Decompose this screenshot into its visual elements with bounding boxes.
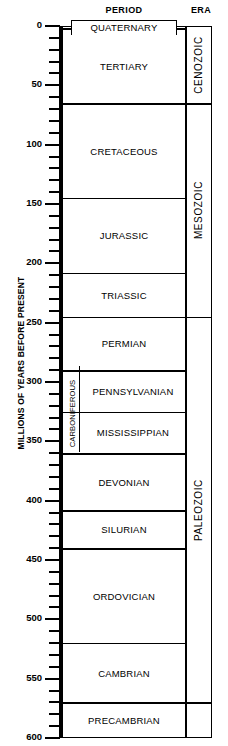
- period-label-jurassic: JURASSIC: [62, 230, 186, 241]
- period-divider: [62, 103, 186, 104]
- axis-tick-minor: [49, 666, 60, 668]
- axis-tick-minor: [49, 488, 60, 490]
- axis-tick-minor: [49, 239, 60, 241]
- axis-tick-major: [45, 322, 60, 324]
- period-label-permian: PERMIAN: [62, 338, 186, 349]
- carboniferous-bracket: CARBONIFEROUS: [62, 366, 80, 452]
- axis-tick-minor: [49, 108, 60, 110]
- axis-tick-minor: [49, 167, 60, 169]
- axis-tick-minor: [49, 227, 60, 229]
- era-label-mesozoic: MESOZOIC: [186, 103, 212, 317]
- period-divider: [62, 702, 186, 703]
- axis-tick-minor: [49, 417, 60, 419]
- axis-tick-label: 200: [2, 256, 42, 267]
- axis-tick-major: [45, 678, 60, 680]
- axis-tick-minor: [49, 393, 60, 395]
- axis-tick-minor: [49, 571, 60, 573]
- axis-tick-major: [45, 618, 60, 620]
- axis-tick-minor: [49, 179, 60, 181]
- axis-tick-label: 350: [2, 434, 42, 445]
- period-divider: [62, 510, 186, 511]
- super-period-label-carboniferous: CARBONIFEROUS: [68, 371, 77, 457]
- period-divider: [62, 198, 186, 199]
- axis-tick-major: [45, 440, 60, 442]
- axis-tick-label: 0: [2, 19, 42, 30]
- axis-tick-major: [45, 500, 60, 502]
- geologic-time-scale-chart: PERIOD ERA MILLIONS OF YEARS BEFORE PRES…: [0, 0, 228, 746]
- axis-tick-minor: [49, 476, 60, 478]
- axis-tick-minor: [49, 654, 60, 656]
- period-label-silurian: SILURIAN: [62, 524, 186, 535]
- era-label-text: MESOZOIC: [186, 103, 212, 317]
- period-label-ordovician: ORDOVICIAN: [62, 590, 186, 601]
- axis-tick-minor: [49, 72, 60, 74]
- axis-tick-minor: [49, 630, 60, 632]
- axis-tick-label: 300: [2, 375, 42, 386]
- period-label-pennsylvanian: PENNSYLVANIAN: [80, 385, 186, 396]
- axis-tick-minor: [49, 642, 60, 644]
- axis-tick-label: 600: [2, 731, 42, 742]
- axis-tick-minor: [49, 713, 60, 715]
- era-label-text: CENOZOIC: [186, 26, 212, 103]
- axis-tick-minor: [49, 595, 60, 597]
- axis-tick-minor: [49, 464, 60, 466]
- axis-tick-major: [45, 203, 60, 205]
- axis-tick-minor: [49, 535, 60, 537]
- axis-tick-label: 100: [2, 138, 42, 149]
- column-header-era: ERA: [186, 5, 216, 15]
- axis-tick-minor: [49, 547, 60, 549]
- period-divider: [62, 273, 186, 274]
- axis-tick-minor: [49, 369, 60, 371]
- axis-tick-minor: [49, 49, 60, 51]
- axis-tick-minor: [49, 274, 60, 276]
- axis-tick-major: [45, 381, 60, 383]
- period-divider: [62, 370, 186, 371]
- axis-tick-minor: [49, 345, 60, 347]
- axis-tick-minor: [49, 215, 60, 217]
- axis-tick-minor: [49, 725, 60, 727]
- axis-tick-label: 450: [2, 553, 42, 564]
- axis-tick-minor: [49, 61, 60, 63]
- axis-tick-label: 250: [2, 316, 42, 327]
- era-label-text: PALEOZOIC: [186, 317, 212, 703]
- axis-tick-label: 550: [2, 672, 42, 683]
- axis-tick-minor: [49, 512, 60, 514]
- period-divider: [62, 453, 186, 454]
- period-label-triassic: TRIASSIC: [62, 289, 186, 300]
- axis-tick-minor: [49, 701, 60, 703]
- axis-tick-minor: [49, 156, 60, 158]
- period-divider: [62, 317, 186, 318]
- axis-tick-label: 150: [2, 197, 42, 208]
- axis-tick-minor: [49, 191, 60, 193]
- axis-tick-minor: [49, 334, 60, 336]
- axis-tick-minor: [49, 96, 60, 98]
- axis-tick-minor: [49, 357, 60, 359]
- axis-tick-major: [45, 25, 60, 27]
- axis-tick-minor: [49, 405, 60, 407]
- axis-tick-minor: [49, 428, 60, 430]
- axis-tick-minor: [49, 690, 60, 692]
- period-label-devonian: DEVONIAN: [62, 476, 186, 487]
- era-label-paleozoic: PALEOZOIC: [186, 317, 212, 703]
- period-label-quaternary: QUATERNARY: [62, 22, 186, 33]
- quaternary-tab-mask: [73, 33, 175, 38]
- y-axis-title: MILLIONS OF YEARS BEFORE PRESENT: [16, 238, 26, 488]
- axis-tick-minor: [49, 37, 60, 39]
- axis-tick-major: [45, 144, 60, 146]
- axis-tick-major: [45, 84, 60, 86]
- axis-tick-label: 50: [2, 78, 42, 89]
- period-label-precambrian: PRECAMBRIAN: [62, 715, 186, 726]
- axis-tick-minor: [49, 250, 60, 252]
- axis-tick-minor: [49, 310, 60, 312]
- column-header-period: PERIOD: [62, 5, 186, 15]
- period-label-tertiary: TERTIARY: [62, 60, 186, 71]
- axis-tick-minor: [49, 120, 60, 122]
- axis-tick-minor: [49, 583, 60, 585]
- period-label-mississippian: MISSISSIPPIAN: [80, 427, 186, 438]
- period-label-cambrian: CAMBRIAN: [62, 667, 186, 678]
- axis-tick-major: [45, 262, 60, 264]
- period-label-cretaceous: CRETACEOUS: [62, 145, 186, 156]
- axis-tick-label: 500: [2, 612, 42, 623]
- axis-tick-minor: [49, 452, 60, 454]
- axis-tick-major: [45, 737, 60, 739]
